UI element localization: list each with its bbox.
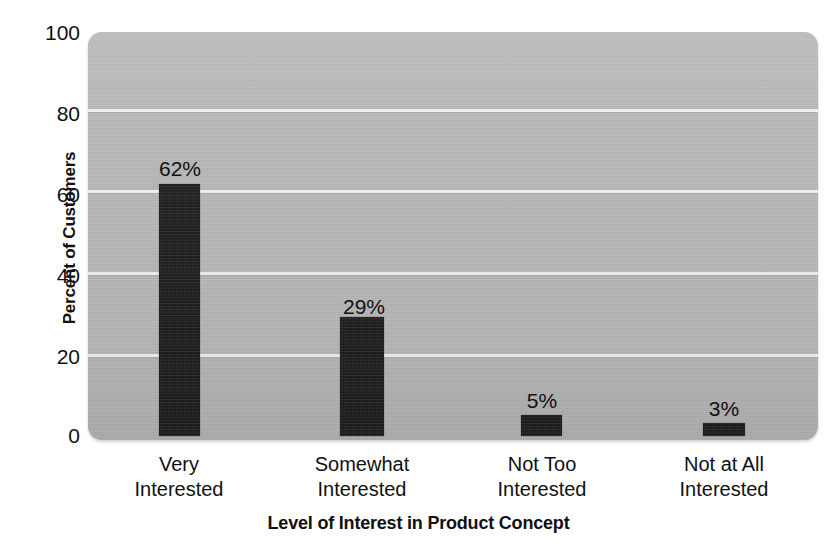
data-label-not-too-interested: 5%	[496, 390, 588, 411]
x-label-line1: Somewhat	[315, 453, 410, 475]
y-tick-100: 100	[22, 22, 80, 43]
bars-layer	[88, 32, 818, 440]
x-label-line1: Very	[159, 453, 199, 475]
bar-somewhat-interested[interactable]	[340, 317, 384, 436]
y-tick-80: 80	[22, 103, 80, 124]
data-label-not-at-all-interested: 3%	[678, 398, 770, 419]
x-label-line1: Not at All	[684, 453, 764, 475]
bar-not-at-all-interested[interactable]	[703, 423, 745, 436]
x-axis-title: Level of Interest in Product Concept	[0, 513, 837, 534]
x-axis-tick-labels: Very Interested Somewhat Interested Not …	[88, 452, 818, 512]
data-label-somewhat-interested: 29%	[318, 296, 410, 317]
x-label-somewhat-interested: Somewhat Interested	[272, 452, 452, 502]
bar-very-interested[interactable]	[159, 184, 200, 436]
x-label-line2: Interested	[89, 477, 269, 502]
y-tick-0: 0	[22, 425, 80, 446]
y-tick-20: 20	[22, 346, 80, 367]
data-label-very-interested: 62%	[134, 158, 226, 179]
y-tick-40: 40	[22, 265, 80, 286]
x-label-line2: Interested	[272, 477, 452, 502]
x-label-very-interested: Very Interested	[89, 452, 269, 502]
x-label-line2: Interested	[634, 477, 814, 502]
x-label-not-at-all-interested: Not at All Interested	[634, 452, 814, 502]
bar-chart: Percent of Customers 100 80 60 40 20 0 6…	[0, 0, 837, 548]
x-label-line1: Not Too	[508, 453, 577, 475]
x-label-not-too-interested: Not Too Interested	[452, 452, 632, 502]
y-tick-60: 60	[22, 184, 80, 205]
x-label-line2: Interested	[452, 477, 632, 502]
plot-area	[88, 32, 818, 440]
y-axis-tick-labels: 100 80 60 40 20 0	[22, 0, 80, 548]
bar-not-too-interested[interactable]	[521, 415, 562, 436]
